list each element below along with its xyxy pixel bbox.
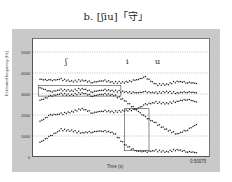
formant-track bbox=[39, 87, 197, 94]
formant-plot bbox=[0, 0, 232, 182]
formant-track bbox=[39, 76, 197, 86]
formant-track bbox=[39, 92, 197, 135]
formant-track bbox=[39, 99, 197, 122]
